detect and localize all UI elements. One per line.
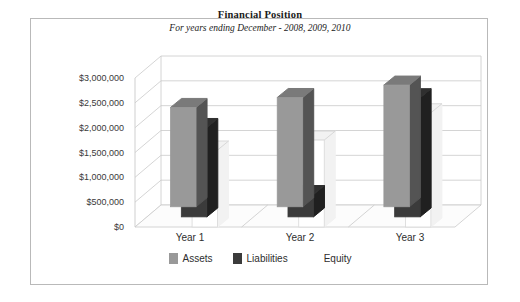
y-axis-tick-label: $0 bbox=[38, 222, 124, 232]
legend-item-equity[interactable]: Equity bbox=[308, 252, 352, 265]
y-axis-tick-label: $2,000,000 bbox=[38, 123, 124, 133]
legend-label: Equity bbox=[324, 253, 352, 264]
x-axis-tick-label: Year 3 bbox=[355, 232, 465, 250]
y-axis-tick-label: $500,000 bbox=[38, 197, 124, 207]
y-axis-tick-label: $1,500,000 bbox=[38, 148, 124, 158]
y-axis-tick-label: $1,000,000 bbox=[38, 172, 124, 182]
x-axis-tick-label: Year 2 bbox=[245, 232, 355, 250]
legend-swatch-icon bbox=[233, 253, 242, 264]
x-axis-tick-label: Year 1 bbox=[135, 232, 245, 250]
legend-item-liabilities[interactable]: Liabilities bbox=[233, 253, 288, 264]
legend-swatch-icon bbox=[169, 253, 178, 264]
x-axis-labels: Year 1Year 2Year 3 bbox=[135, 232, 465, 250]
y-axis-tick-label: $2,500,000 bbox=[38, 98, 124, 108]
chart-legend: AssetsLiabilitiesEquity bbox=[0, 252, 520, 265]
legend-item-assets[interactable]: Assets bbox=[169, 253, 213, 264]
legend-label: Liabilities bbox=[247, 253, 288, 264]
legend-swatch-icon bbox=[308, 252, 319, 265]
legend-label: Assets bbox=[183, 253, 213, 264]
y-axis-tick-label: $3,000,000 bbox=[38, 73, 124, 83]
